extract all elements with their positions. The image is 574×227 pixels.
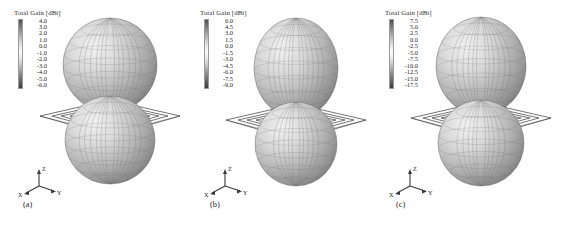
axis-triad-c: Z X Y — [389, 164, 435, 198]
axis-label-x: X — [204, 191, 209, 198]
axis-label-z: Z — [42, 165, 46, 172]
panel-caption: (c) — [396, 200, 405, 209]
axis-label-y: Y — [243, 189, 248, 196]
colorbar-gradient — [389, 19, 394, 89]
axis-triad-b: Z X Y — [204, 164, 250, 198]
axis-label-z: Z — [413, 165, 417, 172]
panel-caption: (b) — [210, 200, 220, 209]
lower-lobe — [255, 102, 337, 186]
axis-label-x: X — [18, 191, 23, 198]
lower-lobe — [438, 100, 524, 186]
panel-b: Total Gain [dBi] 6.0 4.5 3.0 1.5 0.0 -1.… — [186, 0, 377, 227]
axis-label-x: X — [389, 191, 394, 198]
colorbar-gradient — [204, 19, 209, 89]
axis-label-z: Z — [228, 165, 232, 172]
figure-three-panel-radiation-patterns: Total Gain [dBi] 4.0 3.0 2.0 1.0 0.0 -1.… — [0, 0, 574, 227]
panel-c: Total Gain [dBi] 7.5 5.0 2.5 0.0 -2.5 -5… — [371, 0, 562, 227]
axis-triad-a: Z X Y — [18, 164, 64, 198]
colorbar-gradient — [18, 19, 23, 89]
panel-caption: (a) — [23, 200, 32, 209]
axis-label-y: Y — [428, 189, 433, 196]
lower-lobe — [65, 96, 155, 184]
panel-a: Total Gain [dBi] 4.0 3.0 2.0 1.0 0.0 -1.… — [0, 0, 191, 227]
axis-label-y: Y — [57, 189, 62, 196]
